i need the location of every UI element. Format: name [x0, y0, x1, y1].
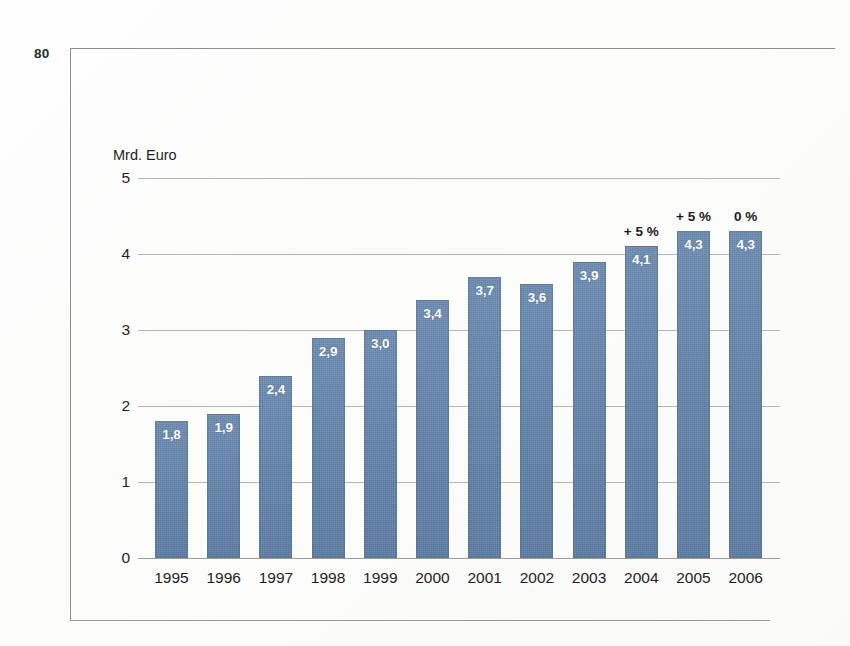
bar-value-label: 1,8: [155, 428, 188, 442]
bar[interactable]: [625, 246, 658, 558]
bar[interactable]: [677, 231, 710, 558]
bar[interactable]: [207, 414, 240, 558]
x-axis-tick-label: 1997: [248, 570, 304, 586]
x-axis-tick-label: 2000: [405, 570, 461, 586]
x-axis-tick-label: 2001: [457, 570, 513, 586]
bar-value-label: 3,0: [364, 337, 397, 351]
bar-value-label: 4,3: [729, 238, 762, 252]
bar-growth-annotation: 0 %: [718, 210, 774, 224]
y-axis-tick-label: 1: [106, 474, 130, 490]
bar[interactable]: [468, 277, 501, 558]
bar-value-label: 3,6: [520, 291, 553, 305]
bar[interactable]: [729, 231, 762, 558]
x-axis-tick-label: 2002: [509, 570, 565, 586]
bar-value-label: 3,9: [573, 269, 606, 283]
y-axis-unit-label: Mrd. Euro: [113, 148, 177, 163]
y-axis-tick-label: 3: [106, 322, 130, 338]
page-background: 80 Mrd. Euro 012345 1,81,92,42,93,03,43,…: [0, 0, 850, 646]
x-axis-tick-label: 1995: [144, 570, 200, 586]
bar-value-label: 3,7: [468, 284, 501, 298]
bar-growth-annotation: + 5 %: [666, 210, 722, 224]
bar-value-label: 3,4: [416, 307, 449, 321]
x-axis-tick-label: 2003: [561, 570, 617, 586]
page-number: 80: [34, 47, 49, 61]
bar-value-label: 4,3: [677, 238, 710, 252]
x-axis-tick-label: 1999: [352, 570, 408, 586]
bar[interactable]: [416, 300, 449, 558]
x-axis-tick-label: 2004: [613, 570, 669, 586]
bar-growth-annotation: + 5 %: [613, 225, 669, 239]
x-axis-tick-label: 2006: [718, 570, 774, 586]
bar[interactable]: [259, 376, 292, 558]
bar-value-label: 2,4: [259, 383, 292, 397]
bar-value-label: 4,1: [625, 253, 658, 267]
y-axis-tick-label: 2: [106, 398, 130, 414]
gridline: [138, 178, 780, 179]
x-axis-tick-label: 1996: [196, 570, 252, 586]
gridline: [138, 558, 780, 559]
bar-value-label: 2,9: [312, 345, 345, 359]
bar-chart: Mrd. Euro 012345 1,81,92,42,93,03,43,73,…: [70, 48, 850, 621]
bar[interactable]: [364, 330, 397, 558]
bar[interactable]: [520, 284, 553, 558]
x-axis-tick-label: 1998: [300, 570, 356, 586]
y-axis-tick-label: 0: [106, 550, 130, 566]
bar[interactable]: [312, 338, 345, 558]
bar-value-label: 1,9: [207, 421, 240, 435]
bar[interactable]: [573, 262, 606, 558]
y-axis-tick-label: 5: [106, 170, 130, 186]
x-axis-tick-label: 2005: [666, 570, 722, 586]
y-axis-tick-label: 4: [106, 246, 130, 262]
